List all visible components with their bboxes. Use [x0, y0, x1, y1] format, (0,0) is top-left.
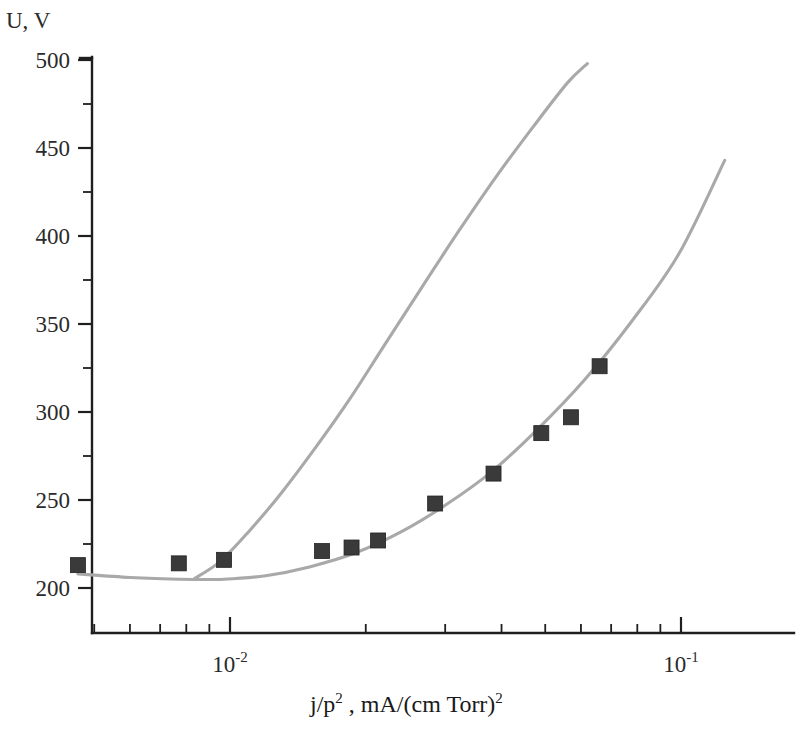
chart-figure: 200250300350400450500 10-210-1 U, V j/p2… [0, 0, 796, 732]
data-point-marker [592, 359, 607, 374]
curve-group [78, 64, 725, 580]
y-tick-label: 250 [36, 488, 71, 513]
y-tick-label: 450 [36, 136, 71, 161]
data-point-marker [315, 544, 330, 559]
data-point-marker [171, 556, 186, 571]
y-tick-label-group: 200250300350400450500 [36, 48, 71, 601]
x-tick-label-exponent: -1 [686, 649, 699, 665]
data-point-marker [563, 410, 578, 425]
curve-upper-curve [194, 64, 588, 580]
data-point-marker [70, 558, 85, 573]
data-point-marker [344, 540, 359, 555]
curve-lower-curve [78, 160, 725, 579]
x-axis-title-exp1: 2 [335, 690, 343, 706]
x-tick-label: 10-2 [212, 649, 248, 677]
y-axis-title: U, V [6, 8, 51, 33]
x-axis-title: j/p2 , mA/(cm Torr)2 [309, 690, 503, 717]
chart-canvas: 200250300350400450500 10-210-1 U, V j/p2… [0, 0, 796, 732]
y-tick-label: 500 [36, 48, 71, 73]
data-point-marker [486, 466, 501, 481]
data-point-group [70, 359, 607, 573]
y-tick-label: 300 [36, 400, 71, 425]
x-axis-title-mid: , mA/(cm Torr) [343, 691, 496, 717]
x-tick-label-exponent: -2 [235, 649, 248, 665]
x-tick-label-base: 10 [663, 652, 686, 677]
x-tick-label: 10-1 [663, 649, 699, 677]
axes-frame [80, 57, 794, 633]
data-point-marker [428, 496, 443, 511]
data-point-marker [534, 426, 549, 441]
x-axis-title-exp2: 2 [495, 690, 503, 706]
y-tick-label: 400 [36, 224, 71, 249]
data-point-marker [371, 533, 386, 548]
y-tick-label: 350 [36, 312, 71, 337]
y-tick-label: 200 [36, 576, 71, 601]
data-point-marker [217, 552, 232, 567]
x-tick-label-base: 10 [212, 652, 235, 677]
x-axis-title-main: j/p [309, 691, 335, 717]
x-tick-group [94, 617, 681, 633]
y-tick-group [78, 60, 92, 588]
x-tick-label-group: 10-210-1 [212, 649, 699, 677]
